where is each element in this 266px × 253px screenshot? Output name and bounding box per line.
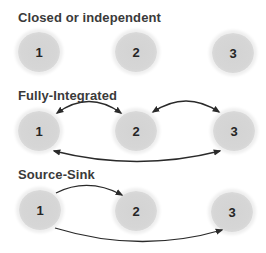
- arrow-integrated-1-3: [54, 151, 220, 162]
- arrow-sourcesink-1-2: [56, 185, 122, 195]
- arrow-sourcesink-1-3: [55, 228, 222, 242]
- arrow-integrated-1-2: [57, 102, 121, 114]
- arrows-layer: [0, 0, 266, 253]
- arrow-integrated-2-3: [153, 101, 219, 112]
